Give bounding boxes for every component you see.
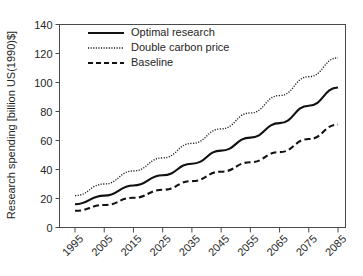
y-tick-label: 20 — [40, 193, 52, 205]
x-tick-label: 2055 — [235, 232, 261, 258]
series-line-baseline — [75, 125, 338, 211]
y-tick-label: 80 — [40, 106, 52, 118]
legend-label-optimal-research: Optimal research — [131, 26, 215, 38]
legend-label-baseline: Baseline — [131, 56, 173, 68]
y-axis-title: Research spending [billion US(1990)$] — [5, 31, 17, 219]
x-tick-label: 2065 — [264, 232, 290, 258]
data-series-group — [75, 58, 338, 211]
y-tick-label: 0 — [46, 222, 52, 234]
series-line-optimal-research — [75, 88, 338, 205]
y-tick-label: 60 — [40, 135, 52, 147]
x-tick-label: 2025 — [147, 232, 173, 258]
chart-figure: 020406080100120140 199520052015202520352… — [0, 0, 363, 276]
chart-legend: Optimal researchDouble carbon priceBasel… — [88, 26, 229, 68]
x-tick-label: 1995 — [60, 232, 86, 258]
y-tick-label: 140 — [34, 19, 52, 31]
x-tick-label: 2045 — [206, 232, 232, 258]
plot-area-frame — [60, 25, 346, 228]
x-tick-label: 2005 — [89, 232, 115, 258]
x-tick-label: 2035 — [177, 232, 203, 258]
x-tick-label: 2015 — [118, 232, 144, 258]
x-tick-label: 2085 — [323, 232, 349, 258]
y-tick-label: 100 — [34, 77, 52, 89]
x-tick-label: 2075 — [293, 232, 319, 258]
y-tick-label: 120 — [34, 48, 52, 60]
legend-label-double-carbon-price: Double carbon price — [131, 41, 229, 53]
line-chart: 020406080100120140 199520052015202520352… — [0, 0, 363, 276]
y-axis-ticks: 020406080100120140 — [34, 19, 59, 234]
series-line-double-carbon-price — [75, 58, 338, 196]
x-axis-ticks: 1995200520152025203520452055206520752085 — [60, 228, 349, 259]
y-tick-label: 40 — [40, 164, 52, 176]
